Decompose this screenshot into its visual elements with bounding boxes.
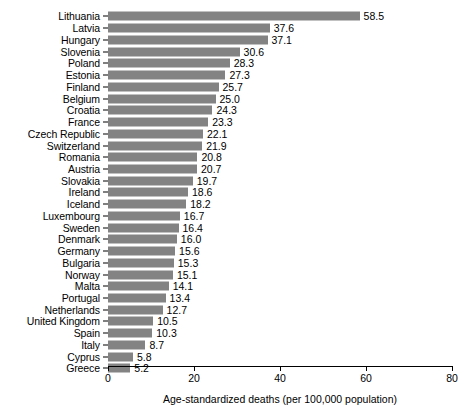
bar bbox=[108, 47, 240, 56]
x-tick-label: 20 bbox=[188, 373, 200, 384]
bar-row: Finland25.7 bbox=[0, 81, 476, 93]
category-label: Luxembourg bbox=[43, 211, 100, 222]
bar-row: Norway15.1 bbox=[0, 269, 476, 281]
bar-value-label: 20.8 bbox=[201, 152, 221, 163]
bar-row: Denmark16.0 bbox=[0, 234, 476, 246]
bar-value-label: 37.6 bbox=[274, 23, 294, 34]
category-label: Greece bbox=[66, 363, 100, 374]
bar bbox=[108, 71, 225, 80]
category-label: Finland bbox=[66, 82, 100, 93]
bar-row: Estonia27.3 bbox=[0, 69, 476, 81]
bar-row: United Kingdom10.5 bbox=[0, 316, 476, 328]
bar-row: Croatia24.3 bbox=[0, 104, 476, 116]
bar bbox=[108, 352, 133, 361]
bar bbox=[108, 129, 203, 138]
bar-value-label: 24.3 bbox=[216, 105, 236, 116]
category-label: Hungary bbox=[61, 35, 100, 46]
bar-value-label: 5.2 bbox=[134, 363, 149, 374]
bar-value-label: 13.4 bbox=[170, 293, 190, 304]
bar-value-label: 21.9 bbox=[206, 140, 226, 151]
bar-value-label: 10.3 bbox=[156, 328, 176, 339]
x-tick bbox=[280, 366, 281, 371]
bar-value-label: 5.8 bbox=[137, 351, 152, 362]
x-tick-label: 0 bbox=[105, 373, 111, 384]
bar-value-label: 22.1 bbox=[207, 129, 227, 140]
bar bbox=[108, 329, 152, 338]
bar bbox=[108, 59, 230, 68]
bar-row: Netherlands12.7 bbox=[0, 304, 476, 316]
bar-row: Slovakia19.7 bbox=[0, 175, 476, 187]
bar-row: Lithuania58.5 bbox=[0, 11, 476, 23]
category-label: Slovenia bbox=[61, 46, 100, 57]
bar bbox=[108, 317, 153, 326]
bar-row: Greece5.2 bbox=[0, 363, 476, 375]
bar bbox=[108, 164, 197, 173]
x-tick bbox=[194, 366, 195, 371]
category-label: France bbox=[68, 117, 100, 128]
category-label: Sweden bbox=[63, 222, 100, 233]
bar-row: Italy8.7 bbox=[0, 339, 476, 351]
category-label: Norway bbox=[65, 269, 100, 280]
bar bbox=[108, 94, 216, 103]
bar-row: Luxembourg16.7 bbox=[0, 210, 476, 222]
category-label: Switzerland bbox=[47, 140, 100, 151]
x-tick-label: 80 bbox=[446, 373, 458, 384]
category-label: Iceland bbox=[67, 199, 100, 210]
bar-value-label: 30.6 bbox=[244, 46, 264, 57]
bar-value-label: 37.1 bbox=[272, 35, 292, 46]
bar bbox=[108, 200, 186, 209]
bar-row: Sweden16.4 bbox=[0, 222, 476, 234]
category-label: Poland bbox=[68, 58, 100, 69]
x-tick bbox=[366, 366, 367, 371]
category-label: Lithuania bbox=[58, 11, 100, 22]
x-tick bbox=[452, 366, 453, 371]
category-label: Portugal bbox=[62, 293, 100, 304]
bar bbox=[108, 35, 268, 44]
x-tick-label: 40 bbox=[274, 373, 286, 384]
x-tick bbox=[108, 366, 109, 371]
bar bbox=[108, 24, 270, 33]
bar-row: Cyprus5.8 bbox=[0, 351, 476, 363]
bar-chart: Lithuania58.5Latvia37.6Hungary37.1Sloven… bbox=[0, 0, 476, 416]
category-label: Latvia bbox=[73, 23, 100, 34]
bar-row: Iceland18.2 bbox=[0, 198, 476, 210]
category-label: Austria bbox=[68, 164, 100, 175]
category-label: Croatia bbox=[67, 105, 100, 116]
x-axis-title: Age-standardized deaths (per 100,000 pop… bbox=[108, 394, 452, 405]
bar-value-label: 15.1 bbox=[177, 269, 197, 280]
bar-row: Poland28.3 bbox=[0, 58, 476, 70]
bar-value-label: 15.3 bbox=[178, 258, 198, 269]
bar bbox=[108, 340, 145, 349]
category-label: United Kingdom bbox=[27, 316, 100, 327]
bar-row: Hungary37.1 bbox=[0, 34, 476, 46]
category-label: Cyprus bbox=[67, 351, 100, 362]
bar-value-label: 27.3 bbox=[229, 70, 249, 81]
bar-value-label: 8.7 bbox=[149, 340, 164, 351]
bar bbox=[108, 106, 212, 115]
bar-row: France23.3 bbox=[0, 116, 476, 128]
bar-row: Switzerland21.9 bbox=[0, 140, 476, 152]
bar bbox=[108, 176, 193, 185]
bar-row: Belgium25.0 bbox=[0, 93, 476, 105]
category-label: Czech Republic bbox=[28, 129, 100, 140]
category-label: Denmark bbox=[58, 234, 100, 245]
bar-value-label: 23.3 bbox=[212, 117, 232, 128]
bar bbox=[108, 118, 208, 127]
bar bbox=[108, 211, 180, 220]
bar-value-label: 15.6 bbox=[179, 246, 199, 257]
bar-row: Austria20.7 bbox=[0, 163, 476, 175]
category-label: Spain bbox=[74, 328, 100, 339]
category-label: Italy bbox=[81, 340, 100, 351]
bar-value-label: 12.7 bbox=[167, 304, 187, 315]
bar-row: Spain10.3 bbox=[0, 327, 476, 339]
bar-row: Ireland18.6 bbox=[0, 187, 476, 199]
bar-row: Germany15.6 bbox=[0, 245, 476, 257]
bar-value-label: 16.4 bbox=[183, 222, 203, 233]
bar bbox=[108, 247, 175, 256]
category-label: Slovakia bbox=[61, 175, 100, 186]
category-label: Netherlands bbox=[44, 304, 100, 315]
bar bbox=[108, 270, 173, 279]
bar-value-label: 16.0 bbox=[181, 234, 201, 245]
category-label: Ireland bbox=[69, 187, 100, 198]
bar-row: Slovenia30.6 bbox=[0, 46, 476, 58]
